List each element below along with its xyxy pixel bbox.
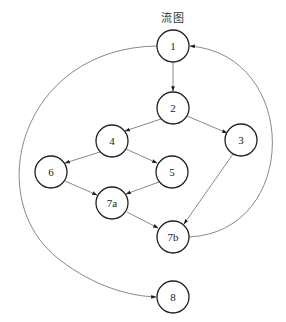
node-label: 7a xyxy=(107,197,118,209)
edge-6-to-7a xyxy=(65,181,97,195)
node-6[interactable]: 6 xyxy=(35,156,67,188)
node-5[interactable]: 5 xyxy=(156,156,188,188)
edge-2-to-4 xyxy=(125,119,161,131)
edge-2-to-3 xyxy=(187,116,227,133)
node-7a[interactable]: 7a xyxy=(96,187,128,219)
node-4[interactable]: 4 xyxy=(96,125,128,157)
edge-4-to-6 xyxy=(65,152,100,163)
edge-5-to-7a xyxy=(126,182,159,194)
nodes-layer: 1 2 3 4 5 6 7a 7b xyxy=(35,30,257,313)
node-label: 6 xyxy=(48,166,54,178)
node-3[interactable]: 3 xyxy=(225,124,257,156)
node-1[interactable]: 1 xyxy=(157,30,189,62)
flow-graph: 1 2 3 4 5 6 7a 7b xyxy=(0,0,286,322)
edge-3-to-7b xyxy=(184,154,233,224)
edge-7a-to-7b xyxy=(127,212,158,228)
node-7b[interactable]: 7b xyxy=(157,221,189,253)
node-label: 1 xyxy=(170,40,176,52)
node-label: 4 xyxy=(109,135,115,147)
node-label: 2 xyxy=(170,102,176,114)
edge-4-to-5 xyxy=(126,149,157,163)
node-label: 8 xyxy=(170,291,176,303)
node-label: 7b xyxy=(168,231,180,243)
node-2[interactable]: 2 xyxy=(157,92,189,124)
node-label: 3 xyxy=(238,134,244,146)
node-label: 5 xyxy=(169,166,175,178)
node-8[interactable]: 8 xyxy=(157,281,189,313)
